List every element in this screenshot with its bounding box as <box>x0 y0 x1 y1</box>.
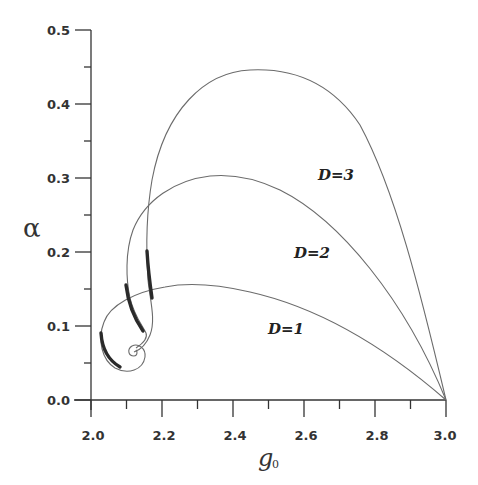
x-tick-label: 2.0 <box>81 428 104 443</box>
x-tick-labels: 2.0 2.2 2.4 2.6 2.8 3.0 <box>81 428 456 443</box>
y-tick-label: 0.2 <box>47 245 70 260</box>
x-tick-label: 2.4 <box>223 428 246 443</box>
y-tick-labels: 0.5 0.4 0.3 0.2 0.1 0.0 <box>47 23 70 408</box>
x-tick-label: 2.2 <box>152 428 175 443</box>
chart-canvas: 0.5 0.4 0.3 0.2 0.1 0.0 2.0 2.2 2.4 2.6 … <box>0 0 478 485</box>
y-axis-title: α <box>23 213 41 243</box>
y-tick-label: 0.1 <box>47 319 70 334</box>
label-d1: D=1 <box>267 320 304 338</box>
y-axis <box>75 30 91 410</box>
thick-segment-d2 <box>126 285 143 331</box>
curve-d2 <box>127 176 446 400</box>
x-axis <box>74 400 446 417</box>
x-axis-title-subscript: 0 <box>272 458 279 471</box>
y-tick-label: 0.4 <box>47 97 70 112</box>
thick-segment-d1 <box>101 333 120 367</box>
y-tick-label: 0.3 <box>47 171 70 186</box>
label-d3: D=3 <box>317 166 354 184</box>
x-tick-label: 2.6 <box>294 428 317 443</box>
label-d2: D=2 <box>293 244 330 262</box>
curve-d3 <box>134 70 446 400</box>
y-tick-label: 0.5 <box>47 23 70 38</box>
x-tick-label: 2.8 <box>365 428 388 443</box>
x-tick-label: 3.0 <box>433 428 456 443</box>
y-tick-label: 0.0 <box>47 393 70 408</box>
curves <box>101 70 446 400</box>
